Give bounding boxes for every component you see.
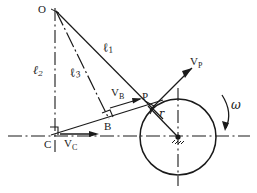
velocity-label-vb: VB xyxy=(111,87,124,101)
length-subscript-l2: 2 xyxy=(38,69,43,78)
point-label-p: P xyxy=(142,91,148,102)
point-label-o: O xyxy=(38,4,46,15)
velocity-subscript-vp: P xyxy=(198,61,202,70)
line-l3-o-to-b xyxy=(56,11,109,119)
rotation-label-omega: ω xyxy=(231,99,241,111)
figure-drawing xyxy=(0,0,257,193)
velocity-vector-vp xyxy=(150,68,192,110)
velocity-symbol-vc: V xyxy=(64,137,72,149)
kinematics-figure: O C B P ℓ1 ℓ2 ℓ3 r VP VB VC ω xyxy=(0,0,257,193)
velocity-symbol-vp: V xyxy=(190,55,198,67)
velocity-label-vc: VC xyxy=(64,138,77,152)
velocity-subscript-vc: C xyxy=(72,143,77,152)
velocity-symbol-vb: V xyxy=(111,86,119,98)
velocity-label-vp: VP xyxy=(190,56,202,70)
point-label-c: C xyxy=(44,139,51,150)
rotation-arrow-omega xyxy=(222,95,229,131)
radius-label-r: r xyxy=(159,108,164,119)
point-label-b: B xyxy=(104,121,111,132)
velocity-subscript-vb: B xyxy=(119,92,124,101)
length-label-l2: ℓ2 xyxy=(33,64,43,78)
